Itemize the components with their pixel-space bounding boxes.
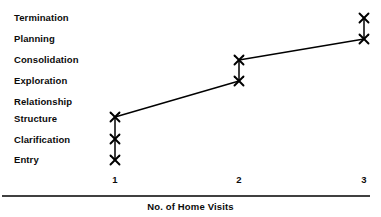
x-axis-tick-3: 3	[361, 174, 366, 185]
connector-segment-1	[115, 81, 239, 117]
connector-segment-2	[239, 39, 364, 60]
plot-area	[0, 0, 381, 217]
chart-figure: Termination Planning Consolidation Explo…	[0, 0, 381, 217]
x-axis-tick-2: 2	[236, 174, 241, 185]
x-axis-title: No. of Home Visits	[0, 201, 381, 212]
x-axis-tick-1: 1	[112, 174, 117, 185]
